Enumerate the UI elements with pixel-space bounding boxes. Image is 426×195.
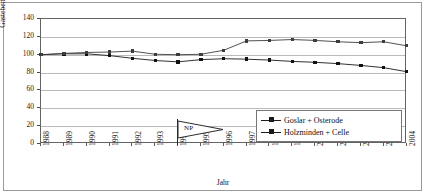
x-tick-label: 1988	[43, 131, 51, 146]
data-point-marker	[222, 57, 225, 60]
x-tick-label: 1990	[89, 131, 97, 146]
data-point-marker	[108, 50, 111, 53]
data-point-marker	[268, 39, 271, 42]
data-point-marker	[405, 44, 408, 47]
data-point-marker	[131, 49, 134, 52]
data-point-marker	[382, 40, 385, 43]
data-point-marker	[176, 53, 179, 56]
data-point-marker	[199, 53, 202, 56]
y-tick-label: 20	[8, 121, 34, 129]
x-tick	[383, 143, 384, 146]
legend-item-goslar-osterode: Goslar + Osterode	[261, 114, 397, 126]
x-tick-label: 1992	[135, 131, 143, 146]
data-point-marker	[405, 70, 408, 73]
data-point-marker	[382, 66, 385, 69]
x-tick	[360, 143, 361, 146]
data-point-marker	[359, 41, 362, 44]
data-point-marker	[85, 51, 88, 54]
x-tick	[63, 143, 64, 146]
y-tick-label: 60	[8, 85, 34, 93]
x-tick	[86, 143, 87, 146]
legend-marker-diamond-icon	[261, 116, 281, 124]
y-tick-label: 140	[8, 14, 34, 22]
x-tick-label: 2004	[409, 131, 417, 146]
y-tick-label: 80	[8, 68, 34, 76]
data-point-marker	[108, 54, 111, 57]
data-point-marker	[176, 60, 179, 63]
x-tick-label: 1991	[112, 131, 120, 146]
x-tick	[314, 143, 315, 146]
x-tick	[406, 143, 407, 146]
data-point-marker	[313, 61, 316, 64]
data-point-marker	[291, 38, 294, 41]
x-tick-label: 1996	[226, 131, 234, 146]
legend: Goslar + Osterode Holzminden + Celle	[256, 110, 402, 142]
flag-pennant-icon	[177, 119, 225, 145]
data-point-marker	[359, 64, 362, 67]
x-tick	[268, 143, 269, 146]
y-axis-title: Gästebetten (Index)	[0, 0, 7, 46]
x-tick	[131, 143, 132, 146]
data-point-marker	[62, 52, 65, 55]
x-tick	[40, 143, 41, 146]
data-point-marker	[39, 53, 42, 56]
y-tick-label: 40	[8, 103, 34, 111]
x-axis-title: Jahr	[40, 178, 406, 187]
data-point-marker	[336, 62, 339, 65]
data-point-marker	[154, 59, 157, 62]
np-flag-label: NP	[184, 124, 193, 132]
x-tick-label: 1989	[66, 131, 74, 146]
data-point-marker	[268, 58, 271, 61]
legend-label: Goslar + Osterode	[284, 116, 343, 125]
data-point-marker	[336, 40, 339, 43]
legend-item-holzminden-celle: Holzminden + Celle	[261, 126, 397, 138]
x-tick-label: 1993	[157, 131, 165, 146]
y-tick-label: 120	[8, 32, 34, 40]
legend-label: Holzminden + Celle	[284, 128, 349, 137]
x-tick	[246, 143, 247, 146]
x-tick	[109, 143, 110, 146]
np-flag-annotation: NP	[177, 119, 225, 145]
x-tick	[337, 143, 338, 146]
data-point-marker	[199, 58, 202, 61]
data-point-marker	[245, 57, 248, 60]
data-point-marker	[131, 57, 134, 60]
y-tick-label: 100	[8, 50, 34, 58]
data-point-marker	[313, 39, 316, 42]
data-point-marker	[291, 60, 294, 63]
legend-marker-square-icon	[261, 128, 281, 136]
series-line	[41, 40, 407, 55]
chart-screenshot: Gästebetten (Index) 020406080100120140 1…	[0, 0, 426, 195]
data-point-marker	[245, 39, 248, 42]
y-tick-label: 0	[8, 139, 34, 147]
data-point-marker	[154, 53, 157, 56]
data-point-marker	[222, 49, 225, 52]
